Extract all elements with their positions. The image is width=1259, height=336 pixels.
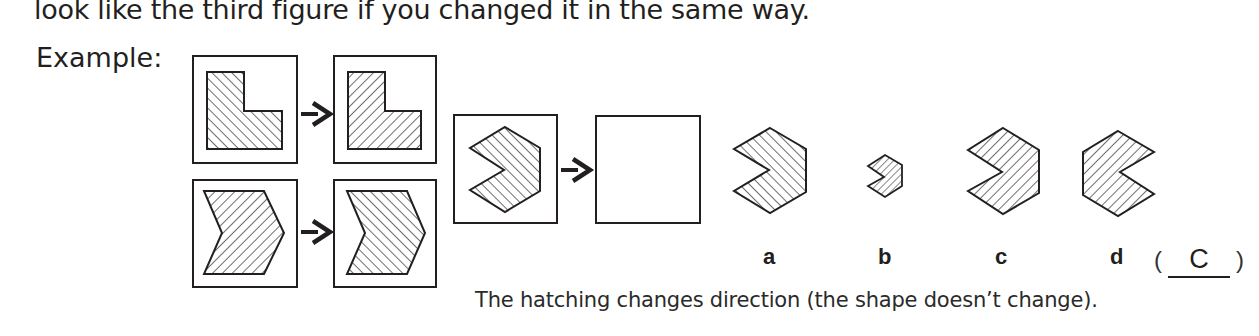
example-1-source-box [193,56,297,163]
explanation-caption: The hatching changes direction (the shap… [475,288,1098,312]
answer-blank[interactable]: C [1168,242,1230,278]
option-label-a[interactable]: a [763,244,775,270]
puzzle-figures [0,0,1259,336]
open-paren: ( [1154,246,1162,273]
answer-field: (C) [1154,242,1244,278]
question-source-box [454,115,557,223]
option-label-b[interactable]: b [878,244,891,270]
option-label-d[interactable]: d [1110,244,1123,270]
example-2-result-box [334,180,436,287]
option-a-figure[interactable] [734,128,806,213]
example-2-source-box [193,180,297,287]
right-arrow-icon [561,159,590,181]
example-1-result-box [334,56,436,163]
option-c-figure[interactable] [968,128,1039,214]
option-d-figure[interactable] [1083,131,1154,216]
answer-target-box [596,116,700,223]
option-b-figure[interactable] [868,155,902,197]
right-arrow-icon [301,103,330,125]
right-arrow-icon [301,221,330,243]
close-paren: ) [1236,246,1244,273]
option-label-c[interactable]: c [995,244,1007,270]
